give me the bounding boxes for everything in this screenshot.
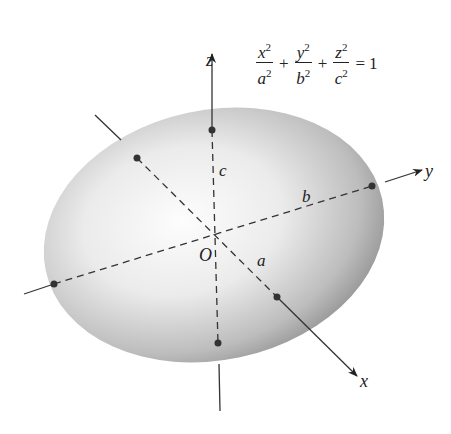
point-x-front [274,294,281,301]
point-y-right [369,183,376,190]
semi-axis-b-label: b [302,187,311,206]
ellipsoid-equation: x2 a2 + y2 b2 + z2 c2 = 1 [254,38,378,89]
point-y-left [51,281,58,288]
x-axis-label: x [359,371,368,391]
ellipsoid-figure: z y x O a b c [0,0,451,434]
term-z: z2 c2 [333,38,349,89]
semi-axis-c-label: c [219,161,227,180]
point-x-back [134,155,141,162]
term-y: y2 b2 [295,38,312,89]
plus-sign: + [318,54,328,74]
y-axis-label: y [423,161,433,181]
term-x: x2 a2 [256,38,273,89]
equals-sign: = [355,54,365,74]
point-z-bottom [215,340,222,347]
z-axis-label: z [205,50,213,70]
origin-label: O [199,245,212,265]
point-z-top [209,127,216,134]
equation-rhs: 1 [369,54,378,74]
semi-axis-a-label: a [257,251,266,270]
plus-sign: + [279,54,289,74]
